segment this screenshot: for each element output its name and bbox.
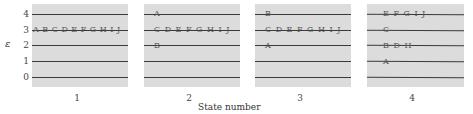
particles-level-3: A B C D E F G H I J (33, 26, 121, 34)
tick-0: 0 (20, 73, 29, 82)
state-number-4: 4 (402, 93, 422, 103)
level-2 (367, 45, 464, 47)
level-4 (32, 14, 128, 15)
particles-level-4: A (154, 10, 161, 18)
particles-level-1: A (383, 58, 390, 66)
level-1 (367, 61, 464, 63)
y-axis-symbol: ε (5, 38, 10, 49)
level-1 (255, 61, 351, 62)
tick-2: 2 (20, 41, 29, 50)
particles-level-3: C (383, 26, 390, 34)
level-1 (144, 61, 240, 62)
level-0 (367, 77, 464, 79)
state-panel-2: A C D E F G H I J B (144, 4, 240, 87)
particles-level-4: E F G I J (383, 10, 426, 18)
level-1 (32, 61, 128, 62)
x-axis-label: State number (198, 102, 260, 112)
particles-level-2: A (265, 42, 272, 50)
tick-1: 1 (20, 57, 29, 66)
level-0 (144, 77, 240, 78)
state-panel-3: B C D E F G H I J A (255, 4, 351, 87)
particles-level-4: B (265, 10, 272, 18)
level-2 (32, 45, 128, 46)
state-number-2: 2 (179, 93, 199, 103)
particles-level-2: B (154, 42, 161, 50)
particles-level-3: C D E F G H I J (154, 26, 230, 34)
state-panel-1: A B C D E F G H I J (32, 4, 128, 87)
state-number-3: 3 (290, 93, 310, 103)
tick-3: 3 (20, 26, 29, 35)
particles-level-3: C D E F G H I J (265, 26, 341, 34)
level-0 (32, 77, 128, 78)
tick-4: 4 (20, 10, 29, 19)
particles-level-2: B D H (383, 42, 412, 50)
level-3 (367, 30, 464, 32)
level-0 (255, 77, 351, 78)
state-panel-4: E F G I J C B D H A (367, 4, 464, 87)
state-number-1: 1 (67, 93, 87, 103)
